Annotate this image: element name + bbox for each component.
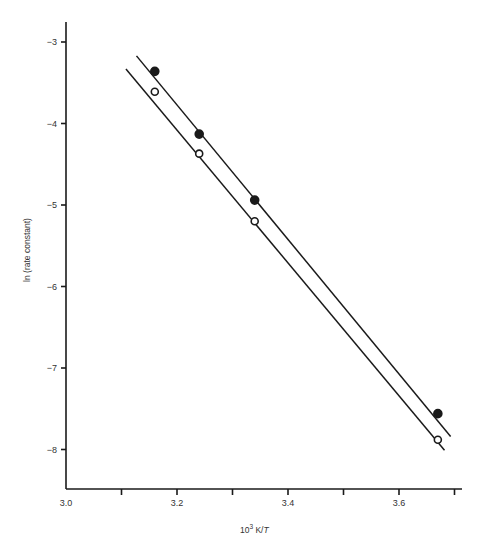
series-layer: [126, 56, 451, 450]
open-data-point: [434, 436, 441, 443]
arrhenius-plot: −3−4−5−6−7−83.03.23.43.6 ln (rate consta…: [0, 0, 483, 554]
fit-line: [136, 56, 450, 437]
series-open: [126, 69, 445, 450]
y-tick-label: −5: [47, 200, 57, 210]
axes: −3−4−5−6−7−83.03.23.43.6: [47, 22, 462, 508]
y-tick-label: −6: [47, 282, 57, 292]
x-tick-label: 3.6: [393, 498, 406, 508]
y-axis-label: ln (rate constant): [22, 218, 32, 282]
series-filled: [136, 56, 450, 437]
open-data-point: [196, 150, 203, 157]
y-tick-label: −4: [47, 119, 57, 129]
filled-data-point: [251, 196, 259, 204]
y-tick-label: −8: [47, 445, 57, 455]
open-data-point: [251, 218, 258, 225]
open-data-point: [151, 88, 158, 95]
filled-data-point: [151, 67, 159, 75]
fit-line: [126, 69, 445, 450]
x-tick-label: 3.4: [282, 498, 295, 508]
y-tick-label: −3: [47, 37, 57, 47]
filled-data-point: [434, 410, 442, 418]
filled-data-point: [195, 130, 203, 138]
x-tick-label: 3.0: [60, 498, 73, 508]
x-axis-label: 103 K/T: [240, 523, 270, 535]
y-tick-label: −7: [47, 363, 57, 373]
x-tick-label: 3.2: [171, 498, 184, 508]
